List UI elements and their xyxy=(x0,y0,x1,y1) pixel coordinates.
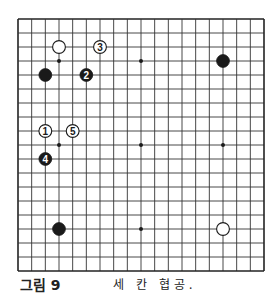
star-point xyxy=(139,143,143,147)
figure-caption: 세 칸 협공. xyxy=(113,276,196,294)
move-number: 3 xyxy=(97,42,103,53)
go-board: 32154 xyxy=(0,0,275,280)
black-stone xyxy=(53,223,66,236)
star-point xyxy=(139,227,143,231)
white-stone xyxy=(53,41,66,54)
black-stone xyxy=(39,69,52,82)
move-number: 5 xyxy=(70,126,76,137)
figure-label: 그림 9 xyxy=(20,276,61,294)
star-point xyxy=(139,59,143,63)
move-number: 4 xyxy=(43,154,49,165)
star-point xyxy=(57,59,61,63)
star-point xyxy=(57,143,61,147)
black-stone xyxy=(217,55,230,68)
move-number: 2 xyxy=(84,70,90,81)
go-board-diagram: 32154 xyxy=(0,0,275,280)
star-point xyxy=(221,143,225,147)
white-stone xyxy=(217,223,230,236)
move-number: 1 xyxy=(43,126,49,137)
